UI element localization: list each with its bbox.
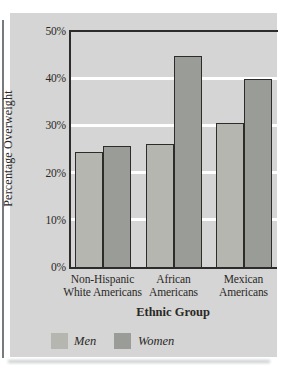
bar-men-2 xyxy=(216,123,244,267)
bar-men-0 xyxy=(75,152,103,267)
y-tick-label-10-percent: 10% xyxy=(34,215,66,226)
y-tick-label-0-percent: 0% xyxy=(34,262,66,273)
y-tick-label-40-percent: 40% xyxy=(34,73,66,84)
y-axis-line xyxy=(69,30,71,269)
figure: 0%10%20%30%40%50%Non-HispanicWhite Ameri… xyxy=(0,0,282,368)
y-axis-title: Percentage Overweight xyxy=(1,64,16,234)
page-bottom-shadow xyxy=(8,360,270,363)
bar-women-1 xyxy=(174,56,202,267)
y-tick-label-50-percent: 50% xyxy=(34,26,66,37)
bar-women-2 xyxy=(244,79,272,267)
x-axis-title: Ethnic Group xyxy=(113,305,233,320)
bar-women-0 xyxy=(103,146,131,267)
y-tick-label-30-percent: 30% xyxy=(34,120,66,131)
x-axis-line xyxy=(69,267,277,269)
y-tick-label-20-percent: 20% xyxy=(34,168,66,179)
legend-label-men: Men xyxy=(74,334,96,349)
category-label-2: MexicanAmericans xyxy=(194,273,283,299)
legend-label-women: Women xyxy=(138,334,174,349)
legend-swatch-women xyxy=(114,333,131,349)
axis-top-line xyxy=(70,30,278,32)
bar-men-1 xyxy=(146,144,174,267)
legend-swatch-men xyxy=(51,333,68,349)
